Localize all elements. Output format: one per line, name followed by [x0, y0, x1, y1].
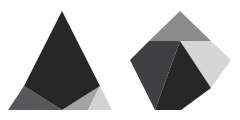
figure-svg: [0, 0, 240, 120]
figure-canvas: [0, 0, 240, 120]
